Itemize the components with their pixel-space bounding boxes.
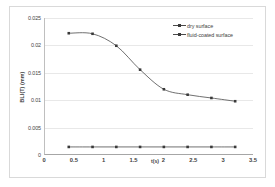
data-point-marker [163, 146, 166, 149]
data-point-marker [210, 146, 213, 149]
data-point-marker [163, 88, 166, 91]
data-point-marker [115, 44, 118, 47]
x-axis-tick-label: 1.5 [130, 157, 138, 163]
data-point-marker [234, 100, 237, 103]
data-point-marker [91, 32, 94, 35]
data-point-marker [139, 68, 142, 71]
x-axis-tick-labels: 00.511.522.533.5 [44, 157, 253, 171]
data-point-marker [115, 146, 118, 149]
x-axis-tick-label: 1 [102, 157, 105, 163]
data-point-marker [139, 146, 142, 149]
x-axis-tick-label: 0.5 [70, 157, 78, 163]
chart-figure: BLI(T) (mm) 00.0050.010.0150.020.025 00.… [0, 0, 275, 187]
x-axis-tick-label: 0 [42, 157, 45, 163]
legend-item[interactable]: dry surface [173, 21, 251, 30]
y-axis-tick-label: 0.005 [28, 125, 41, 131]
x-axis-title: t(s) [151, 158, 159, 164]
y-axis-tick-label: 0.01 [31, 97, 41, 103]
y-axis-tick-label: 0.015 [28, 70, 41, 76]
data-point-marker [210, 97, 213, 100]
legend-item[interactable]: fluid-coated surface [173, 30, 251, 39]
legend-label: fluid-coated surface [186, 32, 233, 38]
x-axis-tick-label: 3 [222, 157, 225, 163]
y-axis-tick-labels: 00.0050.010.0150.020.025 [10, 18, 41, 155]
legend-marker-icon [173, 31, 186, 38]
y-axis-tick-label: 0.025 [28, 15, 41, 21]
data-point-marker [67, 32, 70, 35]
x-axis-tick-label: 3.5 [249, 157, 257, 163]
y-axis-tick-label: 0 [38, 152, 41, 158]
legend-marker-icon [173, 22, 186, 29]
x-axis-tick-label: 2.5 [189, 157, 197, 163]
data-point-marker [67, 146, 70, 149]
legend-label: dry surface [186, 23, 213, 29]
data-point-marker [91, 146, 94, 149]
data-point-marker [234, 146, 237, 149]
data-point-marker [186, 146, 189, 149]
y-axis-tick-label: 0.02 [31, 42, 41, 48]
x-axis-tick-label: 2 [162, 157, 165, 163]
legend: dry surfacefluid-coated surface [173, 21, 251, 39]
series-line [69, 33, 235, 102]
data-point-marker [186, 93, 189, 96]
